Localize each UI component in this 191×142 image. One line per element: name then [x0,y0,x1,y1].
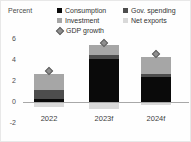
y-tick-label: 0 [1,98,16,106]
x-axis-category-label: 2024f [136,114,176,123]
y-tick-label: -2 [1,119,16,127]
bar-segment-net-exports [89,103,119,109]
bar-segment-consumption [141,77,171,102]
bar-segment-net-exports [141,103,171,105]
y-tick-label: 2 [1,77,16,85]
x-axis-category-label: 2022 [29,114,69,123]
bar-segment-gov-spending [89,55,119,59]
bar-segment-gov-spending [34,90,64,98]
bar-segment-gov-spending [141,74,171,77]
y-tick-label: 4 [1,56,16,64]
bar-segment-consumption [34,99,64,102]
bar-segment-consumption [89,59,119,102]
chart: Percent ConsumptionGov. spendingInvestme… [0,0,191,142]
bar-segment-investment [34,74,64,91]
bar-segment-investment [141,57,171,74]
plot-area: -2024620222023f2024f [1,1,191,142]
y-tick-label: 6 [1,35,16,43]
bar-segment-net-exports [34,103,64,107]
x-axis-category-label: 2023f [84,114,124,123]
